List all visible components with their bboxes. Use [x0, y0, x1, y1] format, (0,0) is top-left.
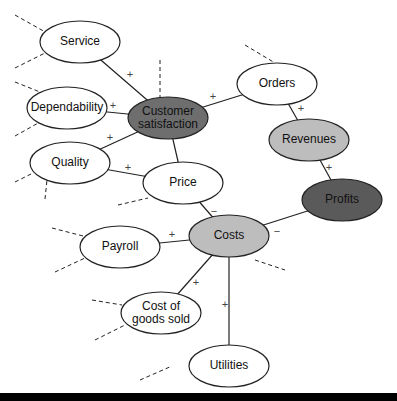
node-label: Payroll — [102, 239, 139, 253]
node-quality: Quality — [30, 142, 110, 184]
node-label: satisfaction — [138, 117, 198, 131]
node-label: Dependability — [31, 100, 104, 114]
node-payroll: Payroll — [80, 226, 160, 268]
edge-sign: + — [125, 161, 131, 173]
edge-sign: − — [211, 205, 217, 217]
edge-sign: + — [193, 276, 199, 288]
node-label: Orders — [259, 76, 296, 90]
dashed-influence-line — [55, 258, 85, 272]
node-label: Revenues — [282, 132, 336, 146]
dashed-influence-line — [95, 325, 125, 340]
node-customer-satisfaction: Customersatisfaction — [128, 97, 208, 139]
edge-sign: + — [298, 102, 304, 114]
node-label: Cost of — [142, 299, 181, 313]
dashed-influence-line — [245, 45, 275, 63]
dashed-influence-line — [15, 82, 40, 92]
node-revenues: Revenues — [269, 119, 349, 161]
node-utilities: Utilities — [189, 345, 269, 387]
edge-sign: + — [127, 68, 133, 80]
dashed-influence-line — [45, 180, 47, 199]
node-orders: Orders — [237, 63, 317, 105]
node-cost-of-goods-sold: Cost ofgoods sold — [121, 292, 201, 334]
node-label: Utilities — [210, 358, 249, 372]
node-dependability: Dependability — [27, 87, 107, 129]
causal-loop-diagram: ServiceDependabilityCustomersatisfaction… — [0, 0, 397, 401]
dashed-influence-line — [15, 53, 45, 68]
dashed-influence-line — [255, 260, 285, 270]
edge-sign: + — [169, 228, 175, 240]
node-label: goods sold — [132, 312, 190, 326]
node-label: Price — [169, 175, 197, 189]
node-label: Profits — [325, 192, 359, 206]
edge-sign: + — [222, 298, 228, 310]
edge-sign: + — [110, 99, 116, 111]
dashed-influence-line — [92, 300, 122, 305]
edge-sign: + — [326, 161, 332, 173]
edge-sign: + — [210, 90, 216, 102]
dashed-influence-line — [52, 228, 83, 236]
node-costs: Costs — [189, 215, 269, 257]
node-price: Price — [143, 162, 223, 204]
node-label: Quality — [51, 155, 88, 169]
dashed-influence-line — [15, 172, 35, 182]
edge-sign: + — [107, 131, 113, 143]
dashed-influence-line — [15, 122, 40, 136]
bottom-border-bar — [0, 393, 397, 401]
nodes: ServiceDependabilityCustomersatisfaction… — [27, 21, 382, 387]
node-label: Costs — [214, 228, 245, 242]
dashed-influence-line — [118, 198, 148, 205]
edge-sign: − — [274, 225, 280, 237]
node-profits: Profits — [302, 179, 382, 221]
node-label: Customer — [142, 104, 194, 118]
dashed-influence-line — [140, 366, 172, 380]
node-service: Service — [40, 21, 120, 63]
node-label: Service — [60, 34, 100, 48]
dashed-influence-line — [15, 15, 47, 33]
